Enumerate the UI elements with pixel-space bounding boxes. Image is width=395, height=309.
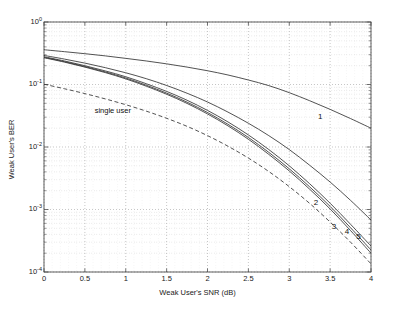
xtick-label-6: 3 xyxy=(269,275,309,283)
xtick-label-8: 4 xyxy=(351,275,391,283)
xtick-label-0: 0 xyxy=(24,275,64,283)
annotation-single-user: single user xyxy=(95,106,131,115)
xtick-label-4: 2 xyxy=(188,275,228,283)
ytick-label-0: 100 xyxy=(22,18,42,26)
chart-plot xyxy=(0,0,395,309)
x-axis-title: Weak User's SNR (dB) xyxy=(0,288,395,297)
figure-container: 100 10-1 10-2 10-3 10-4 00.511.522.533.5… xyxy=(0,0,395,309)
annotation-2: 2 xyxy=(314,198,318,207)
annotation-3: 3 xyxy=(332,222,336,231)
xtick-label-3: 1.5 xyxy=(147,275,187,283)
annotation-4: 4 xyxy=(345,227,349,236)
ytick-label-1: 10-1 xyxy=(19,80,42,88)
xtick-label-1: 0.5 xyxy=(65,275,105,283)
y-axis-title-wrap: Weak User's BER xyxy=(2,105,16,195)
ytick-label-3: 10-3 xyxy=(19,205,42,213)
annotation-1: 1 xyxy=(318,112,322,121)
annotation-5: 5 xyxy=(356,232,360,241)
ytick-label-2: 10-2 xyxy=(19,143,42,151)
xtick-label-7: 3.5 xyxy=(310,275,350,283)
series-curve-4 xyxy=(44,57,371,250)
xtick-label-5: 2.5 xyxy=(228,275,268,283)
y-axis-title: Weak User's BER xyxy=(7,105,16,195)
xtick-label-2: 1 xyxy=(106,275,146,283)
